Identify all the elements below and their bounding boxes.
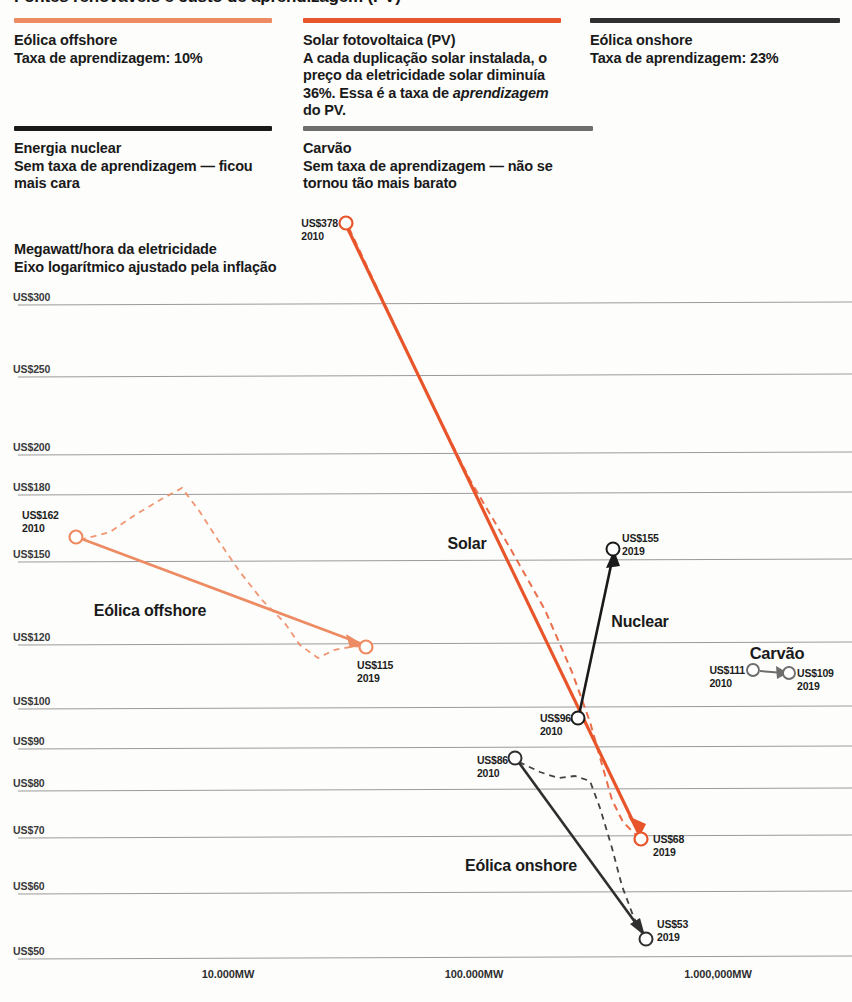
coal-end-marker (783, 667, 795, 679)
nuclear-end-annotation: US$155 2019 (622, 532, 659, 557)
offshore-end-year: 2019 (357, 671, 393, 684)
chart-plot-area (0, 0, 852, 1002)
offshore-start-marker (70, 531, 83, 544)
ytick-90: US$90 (13, 735, 45, 749)
chart-page: Fontes renováveis e custo de aprendizage… (0, 0, 852, 1002)
coal-start-annotation: US$111 2010 (709, 664, 745, 689)
onshore-start-marker (509, 752, 522, 765)
nuclear-end-year: 2019 (622, 544, 659, 557)
gridlines (18, 302, 852, 959)
onshore-start-price: US$86 (477, 754, 508, 767)
coal-end-price: US$109 (797, 667, 834, 680)
ytick-50: US$50 (13, 945, 45, 959)
xtick-100000mw: 100.000MW (445, 968, 503, 980)
solar-start-annotation: US$378 2010 (301, 217, 338, 242)
solar-end-marker (635, 833, 648, 846)
solar-start-price: US$378 (301, 217, 338, 230)
offshore-start-annotation: US$162 2010 (22, 509, 59, 534)
solar-end-annotation: US$68 2019 (653, 833, 684, 858)
offshore-trend-line (82, 539, 362, 644)
nuclear-trend-line (579, 556, 613, 715)
coal-end-year: 2019 (797, 679, 834, 692)
onshore-end-marker (640, 933, 653, 946)
onshore-trend-line (517, 760, 643, 933)
ytick-80: US$80 (13, 777, 45, 791)
solar-end-price: US$68 (653, 833, 684, 846)
solar-end-year: 2019 (653, 845, 684, 858)
onshore-end-price: US$53 (657, 918, 688, 931)
onshore-end-year: 2019 (657, 930, 688, 943)
coal-start-price: US$111 (709, 664, 745, 677)
ytick-100: US$100 (13, 695, 50, 709)
offshore-end-marker (360, 641, 373, 654)
nuclear-start-price: US$96 (540, 712, 571, 725)
onshore-end-annotation: US$53 2019 (657, 918, 688, 943)
nuclear-end-price: US$155 (622, 532, 659, 545)
series-label-nuclear-plot: Nuclear (611, 613, 668, 631)
ytick-200: US$200 (13, 441, 50, 455)
offshore-end-price: US$115 (357, 659, 393, 672)
ytick-60: US$60 (13, 880, 45, 894)
coal-end-annotation: US$109 2019 (797, 667, 834, 692)
series-label-eolica-onshore: Eólica onshore (465, 857, 577, 875)
series-label-eolica-offshore: Eólica offshore (94, 602, 207, 620)
nuclear-start-annotation: US$96 2010 (540, 712, 571, 737)
series-label-solar: Solar (447, 535, 486, 553)
ytick-300: US$300 (13, 291, 50, 305)
solar-start-marker (340, 217, 353, 230)
nuclear-start-marker (572, 712, 585, 725)
offshore-start-year: 2010 (22, 521, 59, 534)
offshore-end-annotation: US$115 2019 (357, 659, 393, 684)
xtick-1000000mw: 1.000,000MW (684, 968, 751, 980)
offshore-start-price: US$162 (22, 509, 59, 522)
ytick-70: US$70 (13, 824, 45, 838)
ytick-120: US$120 (13, 631, 50, 645)
series-label-carvao: Carvão (750, 644, 805, 663)
coal-start-marker (747, 664, 759, 676)
onshore-start-year: 2010 (477, 766, 508, 779)
xtick-10000mw: 10.000MW (202, 968, 254, 980)
offshore-actual-path (80, 488, 362, 658)
ytick-250: US$250 (13, 363, 50, 377)
ytick-150: US$150 (13, 548, 50, 562)
onshore-start-annotation: US$86 2010 (477, 754, 508, 779)
nuclear-end-marker (607, 543, 620, 556)
solar-trend-line (346, 225, 640, 836)
solar-start-year: 2010 (301, 229, 338, 242)
nuclear-start-year: 2010 (540, 724, 571, 737)
coal-start-year: 2010 (709, 676, 745, 689)
ytick-180: US$180 (13, 481, 50, 495)
